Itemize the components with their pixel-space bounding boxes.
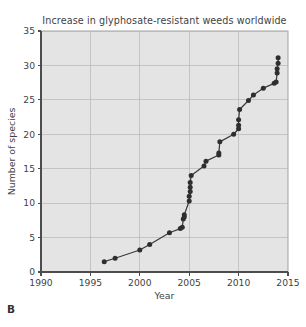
panel-letter: B bbox=[7, 303, 15, 315]
data-point bbox=[237, 107, 242, 112]
weeds-line-chart: 05101520253035 199019952000200520102015 … bbox=[0, 0, 306, 327]
data-point bbox=[275, 66, 280, 71]
data-point bbox=[188, 185, 193, 190]
data-point bbox=[187, 199, 192, 204]
data-point bbox=[187, 194, 192, 199]
data-point bbox=[216, 150, 221, 155]
y-tick-label: 15 bbox=[23, 163, 35, 174]
data-point bbox=[276, 55, 281, 60]
data-point bbox=[137, 247, 142, 252]
data-point bbox=[236, 117, 241, 122]
data-point bbox=[167, 230, 172, 235]
y-tick-label: 30 bbox=[23, 60, 35, 71]
data-point bbox=[261, 86, 266, 91]
data-point bbox=[113, 256, 118, 261]
chart-title: Increase in glyphosate-resistant weeds w… bbox=[42, 15, 286, 26]
data-point bbox=[276, 61, 281, 66]
data-point bbox=[202, 163, 207, 168]
data-point bbox=[251, 93, 256, 98]
data-point bbox=[274, 79, 279, 84]
y-tick-labels: 05101520253035 bbox=[23, 25, 35, 277]
y-tick-label: 25 bbox=[23, 94, 35, 105]
x-tick-label: 1995 bbox=[79, 277, 103, 288]
y-tick-label: 20 bbox=[23, 129, 35, 140]
y-tick-label: 0 bbox=[29, 266, 35, 277]
x-tick-label: 2005 bbox=[178, 277, 202, 288]
data-point bbox=[182, 212, 187, 217]
x-tick-label: 2010 bbox=[227, 277, 251, 288]
data-point bbox=[236, 123, 241, 128]
data-point bbox=[102, 259, 107, 264]
data-point bbox=[180, 225, 185, 230]
x-tick-label: 2015 bbox=[276, 277, 300, 288]
data-point bbox=[246, 98, 251, 103]
x-tick-label: 2000 bbox=[128, 277, 152, 288]
y-tick-label: 5 bbox=[29, 232, 35, 243]
x-axis-label: Year bbox=[154, 290, 175, 301]
y-axis-label: Number of species bbox=[6, 108, 17, 196]
data-point bbox=[147, 242, 152, 247]
y-tick-label: 35 bbox=[23, 25, 35, 36]
data-point bbox=[231, 132, 236, 137]
figure-panel: 05101520253035 199019952000200520102015 … bbox=[0, 0, 306, 327]
data-point bbox=[217, 139, 222, 144]
y-tick-label: 10 bbox=[23, 197, 35, 208]
data-point bbox=[204, 159, 209, 164]
data-point bbox=[189, 173, 194, 178]
x-tick-label: 1990 bbox=[29, 277, 53, 288]
data-point bbox=[188, 180, 193, 185]
x-tick-labels: 199019952000200520102015 bbox=[29, 277, 300, 288]
